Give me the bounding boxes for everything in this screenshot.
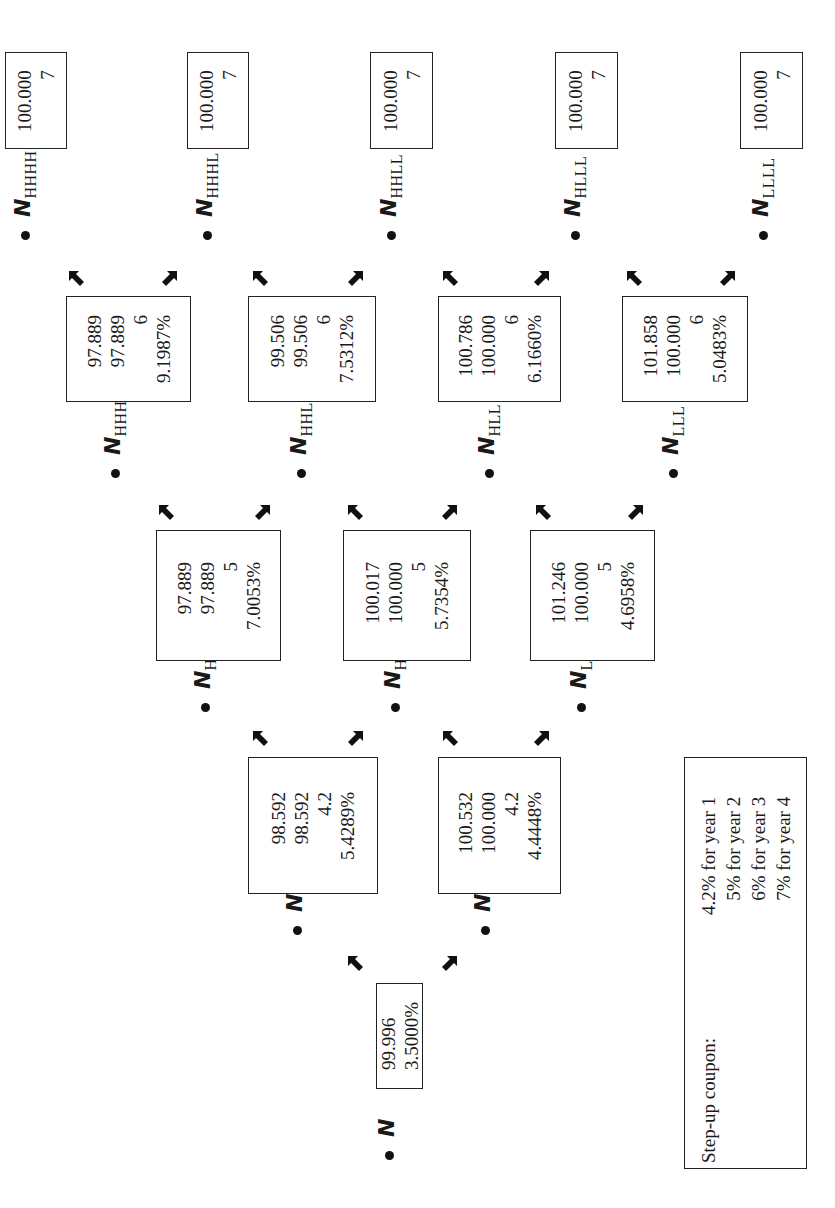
node-box-nl: 100.532 100.000 4.2 4.4448% [438,757,561,894]
node-box-nhhhh: 100.000 7 [5,52,67,149]
arrow-up-left-icon [250,728,270,748]
node-box-nll: 101.246 100.000 5 4.6958% [530,530,655,661]
arrow-up-right-icon [160,268,180,288]
node-label-n: N [374,1119,404,1160]
legend-row: 6% for year 3 [746,797,771,933]
node-box-nhlll: 100.000 7 [555,52,618,149]
node-label-nhhll: NHHLL [376,154,406,240]
node-label-nhlll: NHLLL [560,156,590,240]
arrow-up-right-icon [346,268,366,288]
arrow-up-left-icon [156,502,176,522]
arrow-up-right-icon [440,953,460,973]
legend-table: Step-up coupon: 4.2% for year 1 5% for y… [696,797,796,1163]
arrow-up-left-icon [440,268,460,288]
arrow-up-left-icon [66,268,86,288]
node-label-nhll: NHLL [474,404,504,478]
arrow-up-right-icon [718,268,738,288]
node-box-nh: 98.592 98.592 4.2 5.4289% [248,757,378,894]
node-box-nhhl: 99.506 99.506 6 7.5312% [248,296,376,402]
node-box-nhl: 100.017 100.000 5 5.7354% [343,530,471,661]
node-label-nlll: NLLL [658,406,688,478]
arrow-up-left-icon [624,268,644,288]
legend-row: 4.2% for year 1 [696,797,721,933]
node-box-nllll: 100.000 7 [740,52,803,149]
arrow-up-left-icon [250,268,270,288]
arrow-up-right-icon [532,268,552,288]
node-dot [385,1151,394,1160]
arrow-up-right-icon [532,728,552,748]
legend-title: Step-up coupon: [696,933,721,1163]
arrow-up-left-icon [345,502,365,522]
node-box-nhhll: 100.000 7 [370,52,433,149]
arrow-up-left-icon [345,953,365,973]
node-label-nhhh: NHHH [100,400,130,478]
legend-row: 7% for year 4 [771,797,796,933]
node-box-nhh: 97.889 97.889 5 7.0053% [156,530,281,661]
arrow-up-left-icon [440,728,460,748]
arrow-up-right-icon [253,502,273,522]
legend-row: 5% for year 2 [721,797,746,933]
node-box-nhll: 100.786 100.000 6 6.1660% [438,296,561,402]
node-box-n: 99.996 3.5000% [376,983,423,1089]
node-box-nhhh: 97.889 97.889 6 9.1987% [66,296,191,402]
node-label-nhhhl: NHHHL [192,152,222,240]
arrow-up-right-icon [346,728,366,748]
arrow-up-left-icon [533,502,553,522]
arrow-up-right-icon [626,502,646,522]
node-label-nhhhh: NHHHH [10,150,40,240]
node-box-nlll: 101.858 100.000 6 5.0483% [622,296,748,402]
node-box-nhhhl: 100.000 7 [187,52,249,149]
arrow-up-right-icon [440,502,460,522]
node-label-nhhl: NHHL [286,402,316,478]
node-label-nllll: NLLLL [748,157,778,240]
step-up-coupon-legend: Step-up coupon: 4.2% for year 1 5% for y… [684,757,807,1169]
